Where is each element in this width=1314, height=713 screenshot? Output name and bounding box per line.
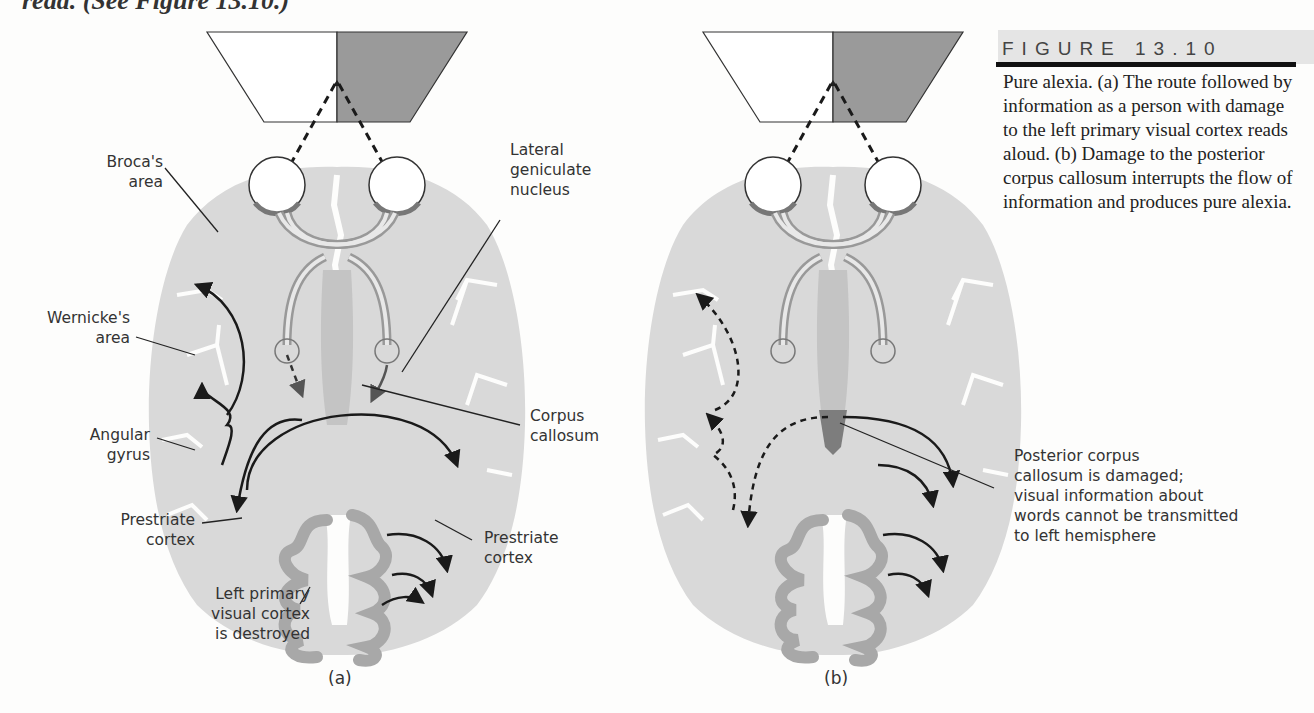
label-prestriate-cortex-right: Prestriate cortex xyxy=(484,528,559,568)
label-brocas-area: Broca's area xyxy=(88,152,163,192)
label-posterior-callosum-damaged: Posterior corpus callosum is damaged; vi… xyxy=(1014,446,1238,546)
panel-a-tag: (a) xyxy=(328,668,352,688)
figure-number: FIGURE 13.10 xyxy=(1002,38,1223,60)
figure-caption: Pure alexia. (a) The route followed by i… xyxy=(1003,70,1303,214)
label-corpus-callosum: Corpus callosum xyxy=(530,406,599,446)
figure-rule xyxy=(996,62,1296,67)
label-angular-gyrus: Angular gyrus xyxy=(60,425,150,465)
label-left-primary-visual-cortex: Left primary visual cortex is destroyed xyxy=(190,584,310,644)
label-wernickes-area: Wernicke's area xyxy=(20,308,130,348)
panel-a-drawing xyxy=(149,32,525,661)
panel-b-tag: (b) xyxy=(824,668,848,688)
label-prestriate-cortex-left: Prestriate cortex xyxy=(90,510,195,550)
label-lateral-geniculate-nucleus: Lateral geniculate nucleus xyxy=(510,140,591,200)
panel-b-drawing xyxy=(645,32,1021,661)
